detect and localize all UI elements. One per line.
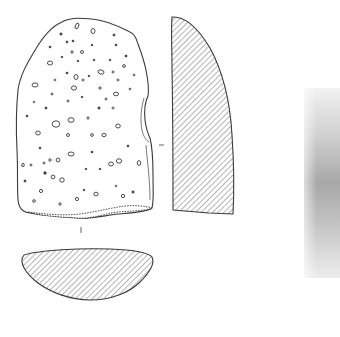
stone-outline (16, 18, 153, 218)
side-section (172, 17, 234, 214)
artifact-drawing (0, 0, 340, 337)
face-view (16, 18, 153, 218)
artifact-photo (304, 88, 340, 278)
transverse-section (22, 249, 153, 300)
